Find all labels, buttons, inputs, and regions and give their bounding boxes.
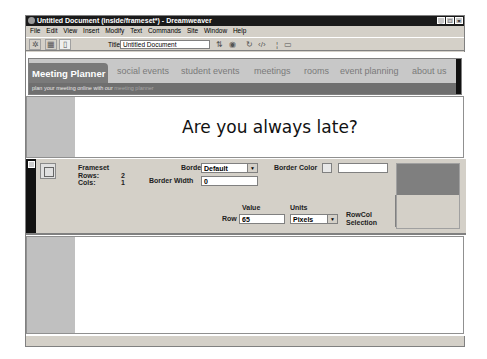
file-management-icon[interactable]: ⇅ — [216, 40, 223, 50]
divider — [395, 195, 396, 227]
dreamweaver-window: Untitled Document (inside/frameset*) - D… — [25, 15, 465, 347]
nav-about-us[interactable]: about us — [412, 64, 447, 78]
menu-commands[interactable]: Commands — [148, 27, 181, 34]
tagline: plan your meeting online with our meetin… — [29, 83, 459, 94]
left-column — [27, 97, 75, 157]
brand-logo[interactable]: Meeting Planner — [29, 63, 108, 83]
app-icon — [28, 17, 35, 24]
site-banner: Meeting Planner social events student ev… — [28, 58, 462, 95]
reference-icon[interactable]: ▭ — [284, 40, 292, 50]
page-heading: Are you always late? — [75, 117, 465, 137]
code-view-icon[interactable]: ▦ — [45, 39, 57, 50]
refresh-icon[interactable]: ↻ — [246, 40, 253, 50]
title-input[interactable]: Untitled Document — [120, 40, 210, 49]
row-label: Row — [222, 215, 237, 222]
maximize-button[interactable]: □ — [446, 17, 454, 24]
rows-value: 2 — [121, 172, 125, 179]
window-title: Untitled Document (inside/frameset*) - D… — [37, 17, 212, 24]
document-toolbar: ✲ ▦ ▯ Title: Untitled Document ⇅ ◉ ↻ ‹/›… — [26, 37, 464, 51]
menu-insert[interactable]: Insert — [83, 27, 99, 34]
row-value-input[interactable]: 65 — [239, 214, 285, 224]
dropdown-arrow-icon: ▼ — [327, 215, 337, 223]
panel-grip[interactable] — [26, 159, 36, 233]
nav-social-events[interactable]: social events — [117, 64, 169, 78]
left-column — [27, 237, 75, 333]
units-column-label: Units — [290, 204, 308, 211]
units-select[interactable]: Pixels ▼ — [290, 214, 338, 224]
nav-student-events[interactable]: student events — [181, 64, 240, 78]
preview-browser-icon[interactable]: ◉ — [229, 40, 236, 50]
selected-row[interactable] — [397, 164, 459, 195]
close-button[interactable]: × — [455, 17, 463, 24]
menu-view[interactable]: View — [63, 27, 77, 34]
minimize-button[interactable]: _ — [437, 17, 445, 24]
tagline-link[interactable]: meeting planner — [114, 85, 153, 91]
frameset-icon — [40, 163, 56, 179]
border-width-input[interactable]: 0 — [201, 176, 258, 186]
selection-label: Selection — [346, 219, 377, 226]
banner-edge — [456, 59, 461, 94]
border-color-swatch[interactable] — [322, 163, 332, 173]
site-navigation: Meeting Planner social events student ev… — [29, 59, 459, 83]
borders-select[interactable]: Default ▼ — [201, 163, 258, 173]
menu-bar: File Edit View Insert Modify Text Comman… — [26, 26, 464, 36]
border-color-input[interactable] — [338, 163, 388, 173]
code-navigation-icon[interactable]: ‹/› — [258, 40, 266, 50]
menu-modify[interactable]: Modify — [105, 27, 124, 34]
menu-window[interactable]: Window — [204, 27, 227, 34]
menu-text[interactable]: Text — [130, 27, 142, 34]
border-color-label: Border Color — [274, 164, 317, 171]
menu-file[interactable]: File — [30, 27, 40, 34]
top-frame[interactable]: Are you always late? — [26, 96, 464, 158]
collapse-icon[interactable] — [28, 161, 35, 168]
nav-event-planning[interactable]: event planning — [340, 64, 399, 78]
frameset-label: Frameset — [78, 164, 109, 171]
bottom-frame[interactable] — [26, 236, 464, 334]
border-width-label: Border Width — [149, 177, 193, 184]
rowcol-selector[interactable] — [396, 163, 460, 229]
property-inspector: Frameset Rows: 2 Cols: 1 Borders Default… — [26, 158, 466, 235]
design-view-icon[interactable]: ▯ — [59, 39, 71, 50]
document-area: Meeting Planner social events student ev… — [26, 52, 466, 336]
site-map-icon[interactable]: ✲ — [29, 39, 41, 50]
nav-meetings[interactable]: meetings — [254, 64, 291, 78]
window-controls: _ □ × — [437, 17, 463, 24]
value-column-label: Value — [242, 204, 260, 211]
menu-site[interactable]: Site — [187, 27, 198, 34]
separator-icon: ¦ — [276, 40, 278, 50]
rowcol-label: RowCol — [346, 211, 372, 218]
dropdown-arrow-icon: ▼ — [247, 164, 257, 172]
menu-help[interactable]: Help — [233, 27, 246, 34]
rows-label: Rows: — [78, 172, 99, 179]
cols-label: Cols: — [78, 179, 96, 186]
menu-edit[interactable]: Edit — [46, 27, 57, 34]
title-bar[interactable]: Untitled Document (inside/frameset*) - D… — [26, 16, 464, 26]
cols-value: 1 — [121, 179, 125, 186]
nav-rooms[interactable]: rooms — [304, 64, 329, 78]
